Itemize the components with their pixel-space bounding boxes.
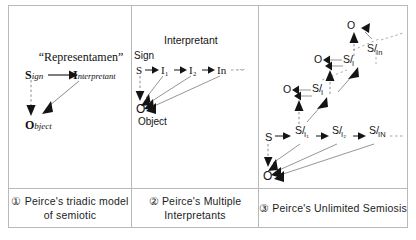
caption-panel-1-text: ① Peirce's triadic model of semiotic	[9, 195, 131, 221]
panel-unlimited-semiosis: S S/I₁ S/I₂ S/IN O O S/I O S/I O S/In	[259, 6, 407, 188]
panel3-edges	[259, 6, 407, 188]
panel2-edges	[132, 6, 258, 188]
caption-panel-3-text: ③ Peirce's Unlimited Semiosis	[259, 202, 407, 215]
panel-triadic-model: “Representamen” Sign Interpretant Object	[9, 6, 131, 188]
caption-panel-1: ① Peirce's triadic model of semiotic	[9, 190, 131, 227]
caption-panel-2-text: ② Peirce's Multiple Interpretants	[132, 195, 258, 221]
caption-panel-3: ③ Peirce's Unlimited Semiosis	[259, 190, 407, 227]
caption-row-divider	[9, 188, 407, 189]
panel-multiple-interpretants: Interpretant Sign Object S I₁ I₂ In ··· …	[132, 6, 258, 188]
caption-panel-2: ② Peirce's Multiple Interpretants	[132, 190, 258, 227]
panel1-edges	[9, 6, 131, 188]
figure-root: “Representamen” Sign Interpretant Object…	[0, 0, 416, 240]
